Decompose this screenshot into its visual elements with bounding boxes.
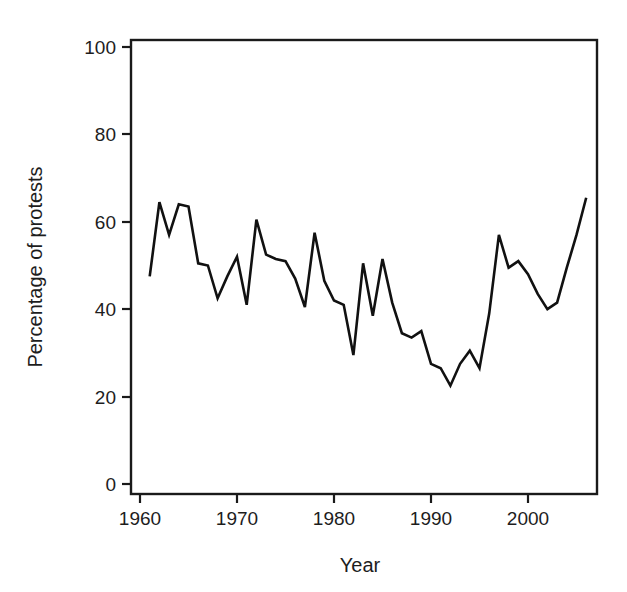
x-axis-title: Year bbox=[340, 554, 381, 576]
x-tick-label-1980: 1980 bbox=[313, 508, 355, 529]
y-axis-tick-labels: 100 80 60 40 20 0 bbox=[84, 37, 116, 495]
y-axis-ticks bbox=[122, 47, 131, 484]
y-tick-label-20: 20 bbox=[95, 387, 116, 408]
x-tick-label-1990: 1990 bbox=[410, 508, 452, 529]
y-axis-title: Percentage of protests bbox=[24, 166, 46, 367]
x-tick-label-1960: 1960 bbox=[119, 508, 161, 529]
x-axis-ticks bbox=[140, 494, 528, 503]
line-chart: 100 80 60 40 20 0 1960 1970 1980 1990 20… bbox=[0, 0, 627, 592]
chart-figure: 100 80 60 40 20 0 1960 1970 1980 1990 20… bbox=[0, 0, 627, 592]
x-tick-label-1970: 1970 bbox=[216, 508, 258, 529]
y-tick-label-0: 0 bbox=[105, 474, 116, 495]
y-tick-label-60: 60 bbox=[95, 212, 116, 233]
y-tick-label-40: 40 bbox=[95, 299, 116, 320]
y-tick-label-80: 80 bbox=[95, 124, 116, 145]
data-series-line bbox=[150, 198, 587, 386]
y-tick-label-100: 100 bbox=[84, 37, 116, 58]
x-axis-tick-labels: 1960 1970 1980 1990 2000 bbox=[119, 508, 549, 529]
x-tick-label-2000: 2000 bbox=[507, 508, 549, 529]
